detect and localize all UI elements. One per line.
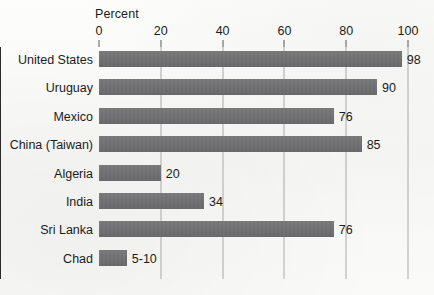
bar [99, 221, 334, 237]
category-label: Algeria [54, 167, 93, 181]
x-tick-label: 40 [216, 24, 230, 38]
bar-row: Sri Lanka76 [0, 220, 434, 241]
x-tick-label: 20 [154, 24, 168, 38]
bar-row: China (Taiwan)85 [0, 135, 434, 156]
bar-row: Uruguay90 [0, 78, 434, 99]
bar-value-label: 90 [382, 81, 396, 95]
x-tick-label: 80 [339, 24, 353, 38]
bar-value-label: 85 [367, 138, 381, 152]
x-tick-label: 100 [398, 24, 419, 38]
category-label: Uruguay [46, 81, 93, 95]
bar [99, 250, 127, 266]
category-label: India [66, 195, 93, 209]
plot-area: United States98Uruguay90Mexico76China (T… [0, 47, 434, 279]
bar-row: Chad5-10 [0, 249, 434, 270]
bar-row: Algeria20 [0, 164, 434, 185]
x-axis-title: Percent [95, 7, 139, 21]
bar-value-label: 76 [339, 110, 353, 124]
category-label: Chad [63, 252, 93, 266]
horizontal-bar-chart: Percent 020406080100 United States98Urug… [0, 0, 434, 295]
bar-row: India34 [0, 192, 434, 213]
bar [99, 136, 362, 152]
x-axis-tick-labels: 020406080100 [0, 24, 434, 39]
bar-value-label: 5-10 [132, 252, 157, 266]
x-tick-label: 60 [277, 24, 291, 38]
x-tick-mark [99, 40, 100, 47]
x-tick-mark [284, 40, 285, 47]
category-label: Mexico [53, 110, 93, 124]
bar-value-label: 34 [209, 195, 223, 209]
category-label: United States [18, 53, 93, 67]
x-tick-mark [408, 40, 409, 47]
x-tick-label: 0 [96, 24, 103, 38]
x-tick-mark [160, 40, 161, 47]
bar [99, 51, 402, 67]
bar-value-label: 76 [339, 223, 353, 237]
bar-row: Mexico76 [0, 107, 434, 128]
bar [99, 165, 161, 181]
bar-value-label: 98 [407, 53, 421, 67]
x-tick-mark [222, 40, 223, 47]
bar-row: United States98 [0, 50, 434, 71]
bar [99, 108, 334, 124]
category-label: Sri Lanka [40, 223, 93, 237]
bar [99, 79, 377, 95]
bar-value-label: 20 [166, 167, 180, 181]
category-label: China (Taiwan) [10, 138, 93, 152]
x-tick-mark [346, 40, 347, 47]
bar [99, 193, 204, 209]
